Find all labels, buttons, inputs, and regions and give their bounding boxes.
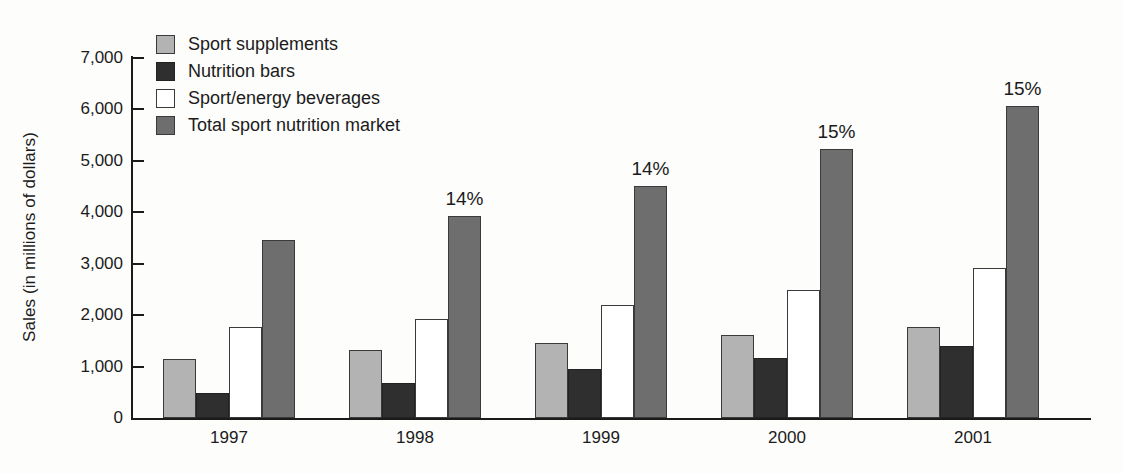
bar-chart: Sales (in millions of dollars) 01,0002,0… — [0, 0, 1123, 474]
x-axis-category-label: 2000 — [768, 428, 806, 448]
legend: Sport supplements Nutrition bars Sport/e… — [156, 31, 400, 139]
legend-item[interactable]: Sport supplements — [156, 31, 400, 58]
legend-swatch-icon — [156, 62, 175, 81]
legend-swatch-icon — [156, 89, 175, 108]
legend-swatch-icon — [156, 116, 175, 135]
legend-item-label: Nutrition bars — [188, 61, 295, 82]
x-axis-category-label: 1997 — [210, 428, 248, 448]
legend-item-label: Total sport nutrition market — [188, 115, 400, 136]
x-axis-category-label: 1999 — [582, 428, 620, 448]
legend-item[interactable]: Total sport nutrition market — [156, 112, 400, 139]
legend-item-label: Sport/energy beverages — [188, 88, 380, 109]
x-axis-category-label: 2001 — [954, 428, 992, 448]
legend-item[interactable]: Sport/energy beverages — [156, 85, 400, 112]
legend-swatch-icon — [156, 35, 175, 54]
legend-item[interactable]: Nutrition bars — [156, 58, 400, 85]
legend-item-label: Sport supplements — [188, 34, 338, 55]
x-axis-category-label: 1998 — [396, 428, 434, 448]
